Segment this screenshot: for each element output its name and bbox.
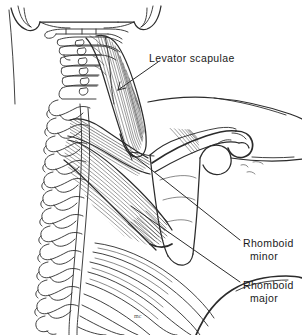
label-levator-scapulae: Levator scapulae — [149, 52, 235, 64]
artist-signature: mc — [134, 313, 142, 319]
anatomical-illustration: Levator scapulae Rhomboid minor Rhomboid… — [0, 0, 302, 335]
label-rhomboid-minor-line1: Rhomboid — [243, 237, 294, 249]
illustration-canvas: Levator scapulae Rhomboid minor Rhomboid… — [0, 0, 302, 335]
label-rhomboid-minor-line2: minor — [250, 250, 278, 262]
label-rhomboid-major-line2: major — [250, 292, 278, 304]
label-rhomboid-major-line1: Rhomboid — [243, 279, 294, 291]
